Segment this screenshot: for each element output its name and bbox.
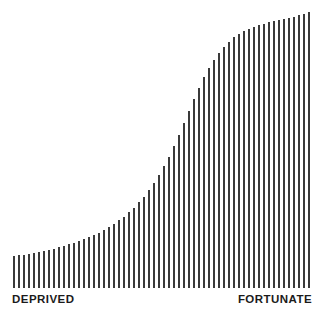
chart-bar <box>278 20 280 288</box>
chart-bar <box>188 111 190 288</box>
chart-bar <box>193 99 195 288</box>
chart-bar <box>233 37 235 288</box>
fortunate-label: FORTUNATE <box>238 292 312 306</box>
chart-bar <box>293 17 295 288</box>
chart-bar <box>83 239 85 288</box>
chart-bar <box>263 24 265 288</box>
chart-bar <box>238 34 240 288</box>
chart-bar <box>163 166 165 288</box>
chart-bar <box>18 255 20 288</box>
chart-bar <box>268 22 270 288</box>
chart-bar <box>113 224 115 288</box>
chart-bar <box>248 29 250 288</box>
chart-bar <box>168 157 170 288</box>
chart-bar <box>98 233 100 288</box>
chart-bar <box>288 18 290 288</box>
chart-bar <box>183 123 185 288</box>
chart-bar <box>73 243 75 288</box>
chart-bar <box>63 246 65 288</box>
chart-bar <box>198 88 200 288</box>
chart-bar <box>208 68 210 288</box>
chart-bar <box>103 230 105 288</box>
chart-bar <box>303 14 305 288</box>
chart-bar <box>68 244 70 288</box>
chart-bar <box>243 31 245 288</box>
chart-bar <box>23 255 25 288</box>
chart-bar <box>228 42 230 288</box>
chart-bar <box>218 53 220 288</box>
chart-bar <box>273 21 275 288</box>
chart-bar <box>13 256 15 288</box>
chart-bar <box>173 146 175 288</box>
sigmoid-bar-chart <box>0 0 324 290</box>
axis-label-row: DEPRIVED FORTUNATE <box>0 292 324 314</box>
chart-bar <box>58 247 60 288</box>
chart-bar <box>133 208 135 288</box>
chart-bar <box>93 235 95 288</box>
chart-bar <box>53 249 55 288</box>
chart-bar <box>78 241 80 288</box>
chart-bar <box>153 183 155 288</box>
chart-bar <box>33 253 35 288</box>
chart-bar <box>143 197 145 288</box>
chart-bar <box>123 217 125 288</box>
chart-bar <box>258 25 260 288</box>
chart-bar <box>48 250 50 288</box>
chart-bar <box>253 27 255 288</box>
chart-bar <box>178 135 180 288</box>
chart-bar <box>138 202 140 288</box>
chart-bar <box>298 15 300 288</box>
chart-bar <box>38 252 40 288</box>
chart-bar <box>108 227 110 288</box>
chart-page: DEPRIVED FORTUNATE <box>0 0 324 322</box>
chart-bar <box>118 220 120 288</box>
chart-bar <box>28 254 30 288</box>
chart-bar <box>203 77 205 288</box>
chart-bar <box>43 251 45 288</box>
chart-bar <box>283 19 285 288</box>
chart-bar <box>308 12 310 288</box>
deprived-label: DEPRIVED <box>12 292 74 306</box>
chart-bar <box>158 175 160 288</box>
chart-bar <box>88 237 90 288</box>
chart-bar <box>128 212 130 288</box>
chart-bar <box>213 60 215 288</box>
chart-bar <box>223 47 225 289</box>
chart-bar <box>148 190 150 288</box>
